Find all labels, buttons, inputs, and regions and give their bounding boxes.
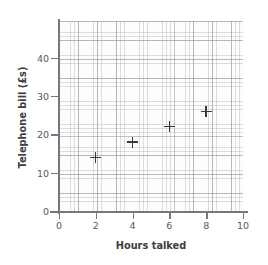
- plot-grid-area: [59, 21, 243, 212]
- y-axis-tick: [51, 173, 58, 174]
- x-axis-tick: [133, 212, 134, 219]
- data-point-marker: [201, 106, 212, 117]
- data-point-marker: [127, 137, 138, 148]
- data-point-marker: [90, 152, 101, 163]
- x-axis-tick-label: 4: [121, 221, 145, 231]
- x-axis-tick-label: 10: [231, 221, 255, 231]
- y-axis-tick: [51, 211, 58, 212]
- data-point-marker: [164, 121, 175, 132]
- x-axis-tick: [206, 212, 207, 219]
- x-axis-title: Hours talked: [59, 240, 243, 251]
- x-axis-line: [50, 211, 248, 213]
- y-axis-title: Telephone bill (£s): [17, 22, 28, 213]
- y-axis-tick: [51, 134, 58, 135]
- x-axis-tick: [96, 212, 97, 219]
- y-axis-line: [58, 19, 60, 214]
- y-axis-tick: [51, 58, 58, 59]
- y-axis-tick: [51, 96, 58, 97]
- x-axis-tick: [169, 212, 170, 219]
- scatter-chart: 0 10 20 30 40 0 2 4 6 8 10 Hours talked …: [0, 0, 268, 265]
- x-axis-tick: [243, 212, 244, 219]
- x-axis-tick-label: 0: [47, 221, 71, 231]
- x-axis-tick-label: 2: [84, 221, 108, 231]
- x-axis-tick-label: 6: [157, 221, 181, 231]
- x-axis-tick-label: 8: [194, 221, 218, 231]
- x-axis-tick: [59, 212, 60, 219]
